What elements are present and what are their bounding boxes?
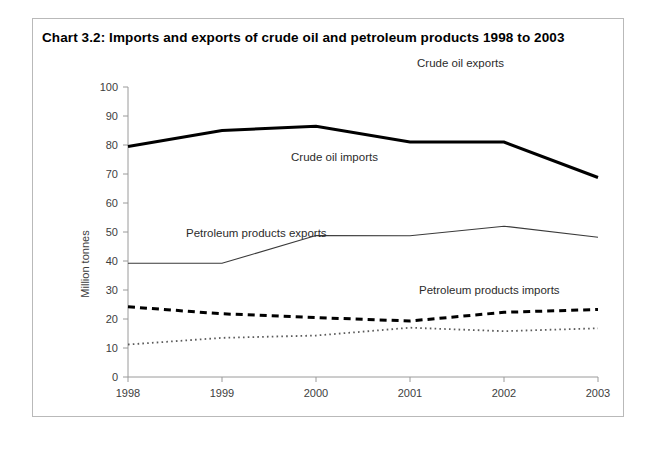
y-axis-ticks: 0102030405060708090100: [100, 81, 128, 383]
y-tick-label: 50: [106, 226, 118, 238]
x-tick-label: 2000: [304, 387, 328, 399]
x-tick-label: 2002: [492, 387, 516, 399]
y-tick-label: 90: [106, 110, 118, 122]
y-tick-label: 20: [106, 313, 118, 325]
y-tick-label: 10: [106, 342, 118, 354]
y-tick-label: 70: [106, 168, 118, 180]
x-tick-label: 2001: [398, 387, 422, 399]
series-line: [128, 307, 598, 321]
series-line: [128, 328, 598, 345]
series-annotation: Crude oil imports: [291, 151, 378, 163]
chart-figure-frame: Chart 3.2: Imports and exports of crude …: [32, 18, 624, 417]
y-tick-label: 60: [106, 197, 118, 209]
y-tick-label: 0: [112, 371, 118, 383]
y-axis-title: Million tonnes: [79, 230, 91, 298]
x-axis-ticks: 199819992000200120022003: [116, 377, 610, 399]
plot-area: 0102030405060708090100 19981999200020012…: [33, 19, 625, 418]
series-annotations-group: Crude oil exportsCrude oil importsPetrol…: [186, 57, 560, 296]
y-tick-label: 30: [106, 284, 118, 296]
y-tick-label: 80: [106, 139, 118, 151]
x-tick-label: 1999: [210, 387, 234, 399]
series-annotation: Crude oil exports: [417, 57, 504, 69]
series-annotation: Petroleum products imports: [419, 284, 560, 296]
y-tick-label: 40: [106, 255, 118, 267]
y-tick-label: 100: [100, 81, 118, 93]
chart-svg: 0102030405060708090100 19981999200020012…: [33, 19, 625, 418]
x-tick-label: 1998: [116, 387, 140, 399]
series-annotation: Petroleum products exports: [186, 227, 327, 239]
x-tick-label: 2003: [586, 387, 610, 399]
